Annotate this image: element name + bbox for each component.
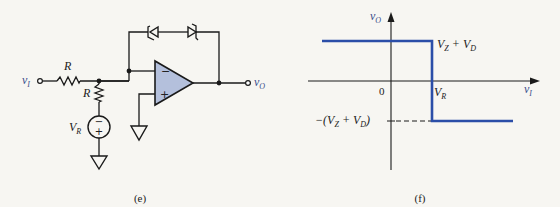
threshold-label: VR — [434, 85, 446, 101]
inverting-input-sign: − — [161, 65, 170, 78]
origin-label: 0 — [379, 85, 385, 97]
shunt-resistor-label: R — [82, 86, 91, 100]
figure-canvas: vI R R − + VR − + — [0, 0, 560, 207]
series-resistor-label: R — [63, 59, 72, 73]
figure-caption-f: (f) — [415, 192, 426, 205]
y-axis-label: vO — [370, 9, 381, 25]
transfer-characteristic-graph: vO vI 0 VR VZ + VD −(VZ + VD) — [308, 9, 540, 170]
shunt-resistor — [95, 84, 103, 102]
x-axis-arrow-icon — [530, 78, 540, 85]
low-level-label: −(VZ + VD) — [315, 113, 370, 129]
input-label: vI — [22, 73, 30, 89]
x-axis-label: vI — [524, 82, 532, 98]
ground-icon — [91, 156, 107, 169]
ground-icon — [131, 126, 147, 140]
figure-caption-e: (e) — [134, 192, 147, 205]
high-level-label: VZ + VD — [437, 37, 476, 53]
source-plus-sign: + — [95, 126, 103, 137]
reference-source-label: VR — [69, 120, 81, 136]
output-terminal — [246, 81, 251, 86]
zener-diode — [148, 26, 158, 40]
output-label: vO — [254, 75, 265, 91]
y-axis-arrow-icon — [388, 12, 395, 22]
noninverting-input-sign: + — [160, 88, 169, 101]
series-resistor — [57, 77, 80, 85]
input-terminal — [38, 79, 43, 84]
output-node — [217, 81, 222, 86]
circuit-diagram: vI R R − + VR − + — [22, 24, 265, 169]
